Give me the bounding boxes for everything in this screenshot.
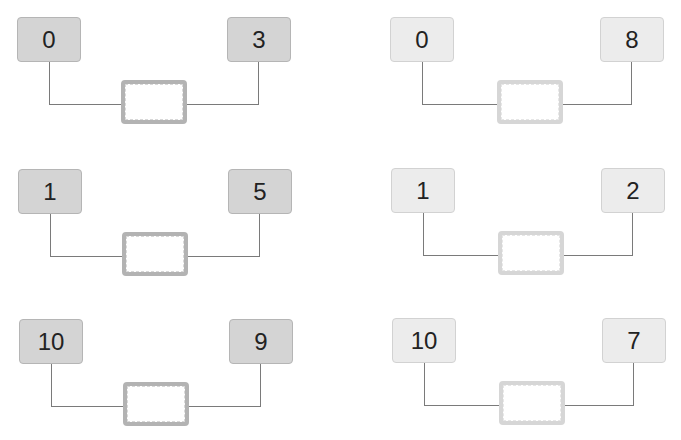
- connector-line: [424, 405, 499, 406]
- number-bond-group: 1 5: [18, 169, 292, 279]
- connector-line: [49, 104, 121, 105]
- connector-line: [259, 214, 260, 257]
- connector-line: [51, 364, 52, 407]
- answer-box[interactable]: [497, 80, 563, 124]
- number-box-left: 0: [390, 17, 454, 62]
- number-bond-group: 10 7: [392, 318, 666, 428]
- connector-line: [633, 363, 634, 406]
- connector-line: [565, 405, 634, 406]
- connector-line: [258, 62, 259, 105]
- number-box-right: 3: [227, 17, 291, 62]
- number-box-right: 7: [602, 318, 666, 363]
- number-box-right: 2: [601, 168, 665, 213]
- number-box-left: 10: [19, 319, 83, 364]
- connector-line: [189, 406, 261, 407]
- answer-box[interactable]: [498, 231, 564, 275]
- connector-line: [260, 364, 261, 407]
- connector-line: [631, 62, 632, 105]
- connector-line: [423, 213, 424, 256]
- connector-line: [424, 363, 425, 406]
- connector-line: [51, 406, 123, 407]
- number-box-right: 9: [229, 319, 293, 364]
- connector-line: [632, 213, 633, 256]
- answer-box[interactable]: [123, 382, 189, 426]
- connector-line: [564, 255, 633, 256]
- connector-line: [188, 256, 260, 257]
- connector-line: [187, 104, 259, 105]
- connector-line: [50, 256, 122, 257]
- number-box-left: 0: [17, 17, 81, 62]
- number-box-left: 1: [18, 169, 82, 214]
- answer-box[interactable]: [121, 80, 187, 124]
- number-box-right: 8: [600, 17, 664, 62]
- number-box-left: 1: [391, 168, 455, 213]
- number-bond-group: 1 2: [391, 168, 665, 278]
- answer-box[interactable]: [122, 232, 188, 276]
- number-bond-group: 0 8: [390, 17, 664, 127]
- number-box-right: 5: [228, 169, 292, 214]
- answer-box[interactable]: [499, 381, 565, 425]
- connector-line: [563, 104, 632, 105]
- number-bond-group: 0 3: [17, 17, 291, 127]
- connector-line: [50, 214, 51, 257]
- connector-line: [49, 62, 50, 105]
- connector-line: [422, 62, 423, 105]
- connector-line: [423, 255, 498, 256]
- number-box-left: 10: [392, 318, 456, 363]
- number-bond-group: 10 9: [19, 319, 293, 429]
- connector-line: [422, 104, 497, 105]
